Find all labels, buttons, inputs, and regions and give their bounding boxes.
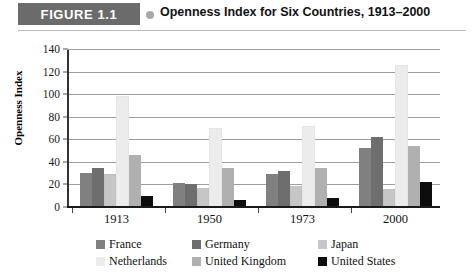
bar-group xyxy=(266,36,339,207)
y-axis-tick-labels: 020406080100120140 xyxy=(26,36,60,208)
figure-number-badge: FIGURE 1.1 xyxy=(18,3,140,25)
y-axis-tick-label: 140 xyxy=(26,43,60,55)
header-divider xyxy=(18,30,466,31)
bar xyxy=(278,171,290,207)
legend-label: France xyxy=(109,237,142,252)
legend-swatch-icon xyxy=(96,257,105,266)
legend-item[interactable]: Netherlands xyxy=(96,254,192,269)
bar xyxy=(290,186,302,207)
bar xyxy=(420,182,432,207)
bar-groups xyxy=(68,36,440,207)
legend-item[interactable]: United States xyxy=(318,254,436,269)
bar xyxy=(92,168,104,208)
legend-item[interactable]: Japan xyxy=(318,237,436,252)
bar xyxy=(266,174,278,207)
bar xyxy=(104,174,116,207)
bar-group xyxy=(80,36,153,207)
legend-swatch-icon xyxy=(96,240,105,249)
y-axis-tick-label: 100 xyxy=(26,88,60,100)
bar xyxy=(185,184,197,207)
bar xyxy=(197,188,209,207)
legend-swatch-icon xyxy=(318,240,327,249)
legend-swatch-icon xyxy=(318,257,327,266)
y-axis-tick-label: 40 xyxy=(26,156,60,168)
chart-legend: FranceGermanyJapanNetherlandsUnited King… xyxy=(96,236,436,270)
bar xyxy=(315,168,327,208)
bar xyxy=(129,155,141,207)
legend-label: Netherlands xyxy=(109,254,167,269)
legend-label: United Kingdom xyxy=(205,254,286,269)
y-axis-tick-label: 20 xyxy=(26,178,60,190)
bar xyxy=(371,137,383,207)
bar xyxy=(395,65,407,207)
y-axis-tick-label: 0 xyxy=(26,201,60,213)
bar xyxy=(408,146,420,207)
bar xyxy=(80,173,92,207)
bar xyxy=(173,183,185,207)
y-axis-tick-label: 80 xyxy=(26,111,60,123)
legend-item[interactable]: Germany xyxy=(192,237,318,252)
bar xyxy=(359,148,371,207)
legend-swatch-icon xyxy=(192,240,201,249)
x-axis-tick-label: 1913 xyxy=(104,212,129,227)
x-axis-tick-label: 1950 xyxy=(197,212,222,227)
x-axis-tick-label: 2000 xyxy=(383,212,408,227)
chart-plot-area: Openness Index 020406080100120140 xyxy=(0,36,474,216)
figure-header: FIGURE 1.1 Openness Index for Six Countr… xyxy=(0,3,474,27)
bar xyxy=(302,126,314,207)
legend-item[interactable]: United Kingdom xyxy=(192,254,318,269)
bar-group xyxy=(359,36,432,207)
legend-label: United States xyxy=(331,254,395,269)
x-axis-tick-label: 1973 xyxy=(290,212,315,227)
bar xyxy=(116,96,128,207)
y-axis-tick-label: 120 xyxy=(26,66,60,78)
bar xyxy=(383,189,395,207)
y-axis-title: Openness Index xyxy=(12,54,24,162)
bullet-dot-icon xyxy=(146,11,154,19)
x-axis-tick-labels: 1913195019732000 xyxy=(68,212,440,232)
bar xyxy=(209,128,221,207)
figure-title: Openness Index for Six Countries, 1913–2… xyxy=(160,5,430,19)
legend-swatch-icon xyxy=(192,257,201,266)
y-axis-tick-label: 60 xyxy=(26,133,60,145)
figure-container: FIGURE 1.1 Openness Index for Six Countr… xyxy=(0,0,474,274)
bar xyxy=(222,168,234,208)
legend-label: Germany xyxy=(205,237,250,252)
bar-group xyxy=(173,36,246,207)
legend-item[interactable]: France xyxy=(96,237,192,252)
legend-label: Japan xyxy=(331,237,358,252)
